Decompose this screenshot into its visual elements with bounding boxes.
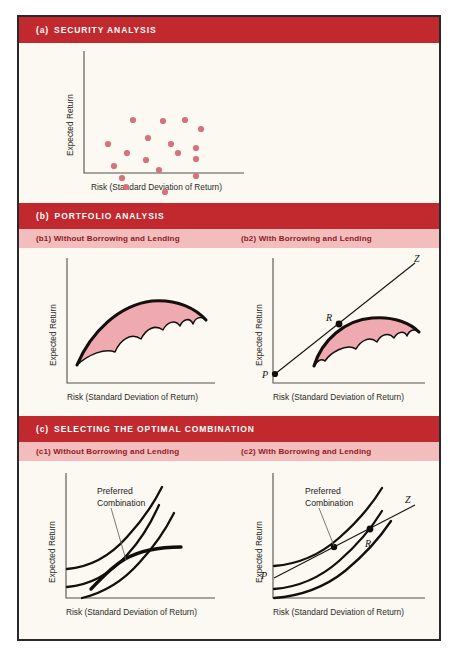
scatter-dot (198, 126, 204, 132)
chart-a-scatter: Expected Return Risk (Standard Deviation… (19, 43, 439, 203)
point-z-label: Z (405, 494, 411, 505)
chart-c1-axes (66, 473, 215, 598)
chart-b1-feasible-region (77, 301, 206, 365)
section-c-banner: (c)SELECTING THE OPTIMAL COMBINATION (19, 416, 439, 442)
point-r-label: R (364, 538, 371, 549)
preferred-combination-leader (111, 508, 126, 560)
chart-c1-x-axis-label: Risk (Standard Deviation of Return) (66, 607, 197, 617)
point-p-label: P (260, 570, 267, 581)
chart-b2-feasible-region (314, 318, 419, 366)
scatter-dot (124, 150, 130, 156)
panel-c1-optimal-no-borrowing: Expected Return Risk (Standard Deviation… (19, 461, 229, 633)
section-b-tag: (b) (36, 211, 50, 221)
chart-b2-y-axis-label: Expected Return (254, 304, 264, 366)
point-p-label: P (261, 369, 268, 380)
scatter-dot (168, 141, 174, 147)
chart-c2-axes (273, 473, 425, 598)
preferred-combination-label-line1: Preferred (97, 486, 133, 496)
panel-b2-portfolio-with-borrowing: Expected Return Risk (Standard Deviation… (229, 248, 439, 416)
scatter-dot (143, 157, 149, 163)
section-b-title: PORTFOLIO ANALYSIS (55, 211, 165, 221)
chart-a-x-axis-label: Risk (Standard Deviation of Return) (91, 182, 222, 192)
scatter-dot (145, 135, 151, 141)
section-a-banner: (a)SECURITY ANALYSIS (19, 17, 439, 43)
preferred-combination-label-line1: Preferred (305, 486, 341, 496)
panel-c2-optimal-with-borrowing: Expected Return Risk (Standard Deviation… (229, 461, 439, 633)
scatter-dot (162, 189, 168, 195)
section-c-title: SELECTING THE OPTIMAL COMBINATION (54, 424, 255, 434)
scatter-dot (105, 141, 111, 147)
indifference-curve (67, 505, 159, 587)
chart-c2: Expected Return Risk (Standard Deviation… (229, 461, 439, 633)
section-b-panels: Expected Return Risk (Standard Deviation… (19, 248, 439, 416)
preferred-combination-leader (319, 508, 334, 546)
scatter-dot (130, 117, 136, 123)
section-a-title: SECURITY ANALYSIS (54, 25, 156, 35)
section-a-tag: (a) (36, 25, 49, 35)
scatter-dot (111, 163, 117, 169)
feasible-region-fill (314, 318, 419, 366)
scatter-dot (193, 156, 199, 162)
panel-b1-portfolio-no-borrowing: Expected Return Risk (Standard Deviation… (19, 248, 229, 416)
scatter-dot (160, 118, 166, 124)
section-c-tag: (c) (36, 424, 49, 434)
chart-b2: Expected Return Risk (Standard Deviation… (229, 248, 439, 416)
scatter-dot (156, 167, 162, 173)
point-r-marker (367, 526, 374, 533)
chart-c2-x-axis-label: Risk (Standard Deviation of Return) (273, 607, 404, 617)
section-a-panels: Expected Return Risk (Standard Deviation… (19, 43, 439, 203)
subtitle-b1: (b1) Without Borrowing and Lending (19, 229, 233, 248)
point-r-label: R (325, 312, 332, 323)
scatter-dot (193, 145, 199, 151)
section-c-subbar: (c1) Without Borrowing and Lending (c2) … (19, 442, 439, 461)
chart-b2-x-axis-label: Risk (Standard Deviation of Return) (273, 392, 404, 402)
preferred-combination-marker (331, 544, 337, 550)
subtitle-c2: (c2) With Borrowing and Lending (233, 442, 439, 461)
scatter-dot (119, 175, 125, 181)
scatter-dot (193, 173, 199, 179)
chart-c1-y-axis-label: Expected Return (47, 521, 57, 583)
chart-a-y-axis-label: Expected Return (65, 94, 75, 156)
point-r-marker (336, 321, 343, 328)
scatter-dot (175, 150, 181, 156)
scatter-dot (123, 184, 129, 190)
section-b-subbar: (b1) Without Borrowing and Lending (b2) … (19, 229, 439, 248)
scatter-dot (182, 117, 188, 123)
capital-market-line (274, 505, 415, 578)
subtitle-c1: (c1) Without Borrowing and Lending (19, 442, 233, 461)
chart-b1: Expected Return Risk (Standard Deviation… (19, 248, 229, 416)
section-c-panels: Expected Return Risk (Standard Deviation… (19, 461, 439, 633)
point-z-label: Z (414, 253, 420, 264)
panel-a-security-analysis: Expected Return Risk (Standard Deviation… (19, 43, 439, 203)
efficient-frontier (91, 547, 181, 589)
chart-b1-y-axis-label: Expected Return (48, 304, 58, 366)
preferred-combination-label-line2: Combination (305, 498, 353, 508)
chart-a-axes (84, 51, 244, 173)
subtitle-b2: (b2) With Borrowing and Lending (233, 229, 439, 248)
figure-container: (a)SECURITY ANALYSIS Expected Return Ris… (17, 15, 441, 641)
point-p-marker (272, 371, 278, 377)
chart-b1-x-axis-label: Risk (Standard Deviation of Return) (67, 392, 198, 402)
section-b-banner: (b)PORTFOLIO ANALYSIS (19, 203, 439, 229)
preferred-combination-label-line2: Combination (97, 498, 145, 508)
chart-c1: Expected Return Risk (Standard Deviation… (19, 461, 229, 633)
